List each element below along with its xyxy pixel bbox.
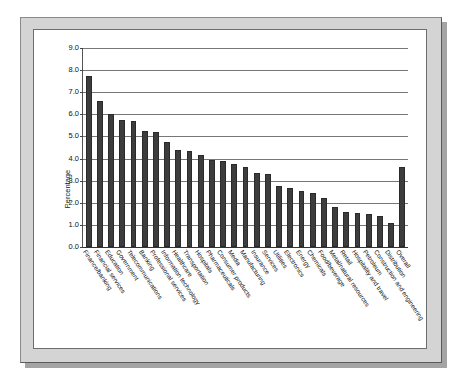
y-axis-tick-mark: [80, 247, 83, 248]
bar: [164, 142, 170, 247]
bar: [299, 191, 305, 247]
bar: [231, 164, 237, 247]
y-axis-tick-label: 1.0: [69, 221, 79, 229]
bar: [220, 161, 226, 247]
bar: [310, 193, 316, 247]
picture-frame-inner: Percentage 0.01.02.03.04.05.06.07.08.09.…: [33, 29, 427, 349]
bar: [399, 167, 405, 247]
bar: [254, 173, 260, 247]
bar: [265, 174, 271, 247]
plot-area: 0.01.02.03.04.05.06.07.08.09.0: [82, 48, 408, 248]
bar-chart: Percentage 0.01.02.03.04.05.06.07.08.09.…: [34, 30, 426, 348]
bar: [119, 120, 125, 247]
y-axis-tick-label: 5.0: [69, 133, 79, 141]
bar: [355, 213, 361, 247]
bar: [366, 214, 372, 247]
bar: [142, 131, 148, 247]
y-axis-tick-label: 9.0: [69, 44, 79, 52]
bar: [97, 101, 103, 247]
bar: [343, 212, 349, 247]
screenshot-root: Percentage 0.01.02.03.04.05.06.07.08.09.…: [0, 0, 465, 389]
y-axis-tick-label: 3.0: [69, 177, 79, 185]
bar: [209, 160, 215, 247]
y-axis-tick-label: 8.0: [69, 66, 79, 74]
bar: [332, 207, 338, 247]
bar: [175, 150, 181, 247]
y-axis-tick-label: 4.0: [69, 155, 79, 163]
picture-frame-outer: Percentage 0.01.02.03.04.05.06.07.08.09.…: [20, 17, 442, 363]
bar: [243, 167, 249, 247]
bar: [287, 188, 293, 247]
bar: [321, 198, 327, 247]
y-axis-tick-label: 7.0: [69, 88, 79, 96]
bar: [131, 121, 137, 247]
bar: [153, 132, 159, 247]
bar: [187, 151, 193, 247]
y-axis-tick-label: 6.0: [69, 111, 79, 119]
x-axis-labels: Finance/bankingFinancial servicesEducati…: [82, 249, 408, 349]
y-axis-tick-label: 0.0: [69, 243, 79, 251]
bar: [108, 114, 114, 247]
bar: [377, 216, 383, 247]
bar: [198, 155, 204, 247]
bar: [276, 186, 282, 247]
bar: [388, 223, 394, 247]
y-axis-tick-label: 2.0: [69, 199, 79, 207]
bar-series: [83, 48, 408, 247]
bar: [86, 76, 92, 247]
